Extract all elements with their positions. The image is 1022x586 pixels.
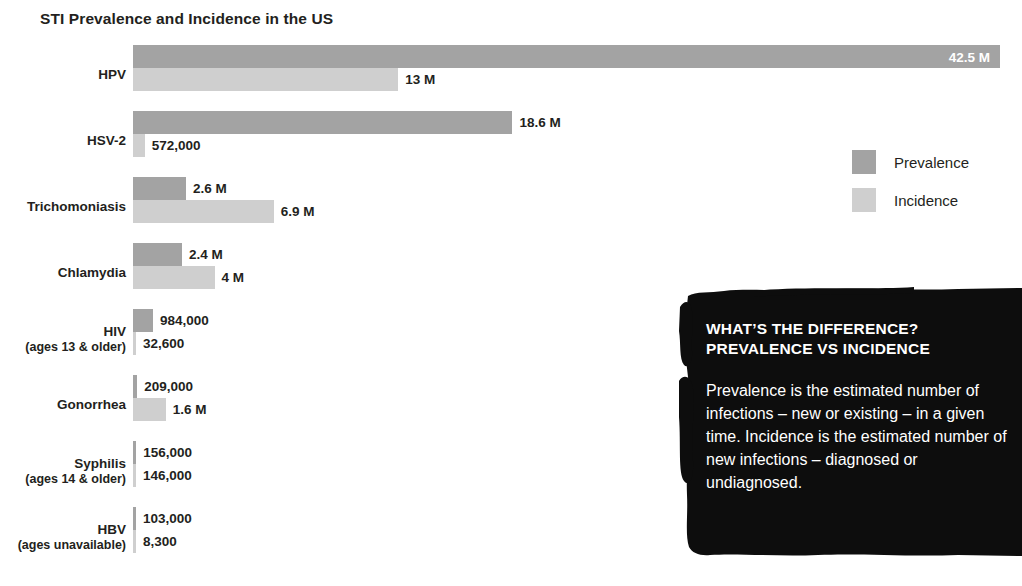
row-label-sublabel: (ages 14 & older) [0,471,126,487]
bar-group-incidence: 572,000 [133,134,200,157]
bar-group-incidence: 32,600 [133,332,184,355]
bar-incidence [133,464,136,487]
bar-group-incidence: 1.6 M [133,398,206,421]
row-label-hbv: HBV(ages unavailable) [0,522,126,553]
bar-value-label: 156,000 [136,445,192,460]
row-label-sublabel: (ages unavailable) [0,537,126,553]
bar-value-label: 42.5 M [949,49,990,64]
bar-value-label: 146,000 [136,468,192,483]
bar-value-label: 103,000 [136,511,192,526]
callout-heading-line1: WHAT’S THE DIFFERENCE? [706,319,1008,339]
bar-prevalence [133,507,136,530]
row-label-gonorrhea: Gonorrhea [0,397,126,413]
sti-bar-chart: STI Prevalence and Incidence in the US H… [0,0,1022,586]
bar-incidence [133,530,136,553]
bar-value-label: 984,000 [153,313,209,328]
bar-group-incidence: 4 M [133,266,244,289]
bar-incidence [133,68,398,91]
bar-value-label: 18.6 M [512,115,560,130]
bar-value-label: 572,000 [145,138,201,153]
bar-value-label: 4 M [215,270,245,285]
bar-prevalence: 42.5 M [133,45,1000,68]
row-label-name: Syphilis [74,456,126,471]
bar-value-label: 8,300 [136,534,177,549]
chart-row: HPV42.5 M13 M [0,45,1022,105]
callout-box: WHAT’S THE DIFFERENCE? PREVALENCE VS INC… [658,285,1022,558]
row-label-hsv-2: HSV-2 [0,133,126,149]
bar-prevalence [133,243,182,266]
bar-prevalence [133,375,137,398]
row-label-chlamydia: Chlamydia [0,265,126,281]
row-label-hiv: HIV(ages 13 & older) [0,324,126,355]
row-label-sublabel: (ages 13 & older) [0,339,126,355]
row-label-name: Trichomoniasis [27,199,126,214]
bar-prevalence [133,111,512,134]
chart-legend: Prevalence Incidence [852,143,969,219]
chart-title: STI Prevalence and Incidence in the US [40,10,333,28]
bar-group-prevalence: 984,000 [133,309,209,332]
callout-body: Prevalence is the estimated number of in… [706,379,1008,494]
bar-group-prevalence: 18.6 M [133,111,561,134]
bar-group-prevalence: 156,000 [133,441,192,464]
bar-value-label: 1.6 M [166,402,207,417]
bar-value-label: 2.6 M [186,181,227,196]
callout-heading-line2: PREVALENCE VS INCIDENCE [706,339,1008,359]
bar-group-prevalence: 209,000 [133,375,193,398]
row-label-hpv: HPV [0,67,126,83]
bar-incidence [133,134,145,157]
bar-group-incidence: 146,000 [133,464,192,487]
row-label-name: HPV [98,67,126,82]
bar-value-label: 2.4 M [182,247,223,262]
bar-prevalence [133,177,186,200]
row-label-name: HSV-2 [87,133,126,148]
callout-text: WHAT’S THE DIFFERENCE? PREVALENCE VS INC… [706,319,1008,494]
incidence-swatch-icon [852,188,876,212]
bar-group-prevalence: 2.6 M [133,177,227,200]
bar-group-prevalence: 42.5 M [133,45,1000,68]
bar-value-label: 13 M [398,72,435,87]
legend-label-incidence: Incidence [876,192,958,209]
row-label-trichomoniasis: Trichomoniasis [0,199,126,215]
bar-group-incidence: 6.9 M [133,200,315,223]
bar-value-label: 209,000 [137,379,193,394]
bar-prevalence [133,309,153,332]
row-label-name: HBV [97,522,126,537]
bar-incidence [133,266,215,289]
row-label-name: Chlamydia [58,265,126,280]
callout-heading: WHAT’S THE DIFFERENCE? PREVALENCE VS INC… [706,319,1008,359]
bar-group-incidence: 8,300 [133,530,177,553]
bar-incidence [133,200,274,223]
bar-incidence [133,398,166,421]
bar-incidence [133,332,136,355]
bar-prevalence [133,441,136,464]
row-label-syphilis: Syphilis(ages 14 & older) [0,456,126,487]
prevalence-swatch-icon [852,150,876,174]
row-label-name: HIV [103,324,126,339]
row-label-name: Gonorrhea [57,397,126,412]
bar-group-prevalence: 103,000 [133,507,192,530]
legend-item-prevalence: Prevalence [852,143,969,181]
legend-label-prevalence: Prevalence [876,154,969,171]
legend-item-incidence: Incidence [852,181,969,219]
bar-value-label: 6.9 M [274,204,315,219]
bar-value-label: 32,600 [136,336,184,351]
bar-group-prevalence: 2.4 M [133,243,223,266]
bar-group-incidence: 13 M [133,68,435,91]
